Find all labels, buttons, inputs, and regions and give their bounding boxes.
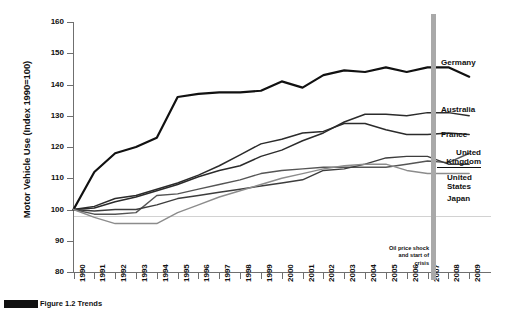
series-line-germany [74, 67, 470, 209]
series-label-uk-line1: United [437, 148, 481, 157]
chart-figure: Motor Vehicle Use (Index 1990=100) 80901… [0, 0, 523, 315]
series-label-us-line2: States [447, 182, 472, 191]
series-line-united-states [74, 156, 470, 211]
series-label-france: France [441, 130, 467, 139]
series-label-uk-line2: Kingdom [437, 157, 481, 166]
caption-text: Figure 1.2 Trends [40, 299, 102, 308]
series-label-germany: Germany [441, 58, 476, 67]
series-label-us-line1: United [447, 173, 472, 182]
series-label-united-kingdom: UnitedKingdom [437, 148, 481, 168]
crisis-annotation-line-1: Oil price shock [356, 245, 429, 252]
series-line-france [74, 124, 470, 210]
crisis-annotation-line-2: and start of [356, 252, 429, 259]
caption-bar [4, 300, 38, 308]
crisis-annotation: Oil price shock and start of crisis [356, 245, 429, 267]
crisis-marker-line [431, 14, 436, 280]
series-label-australia: Australia [441, 105, 475, 114]
series-line-united-kingdom [74, 153, 470, 214]
crisis-annotation-line-3: crisis [356, 260, 429, 267]
series-label-united-states: UnitedStates [447, 173, 472, 191]
series-line-australia [74, 113, 470, 210]
series-line-japan [74, 164, 470, 223]
series-label-japan: Japan [447, 194, 470, 203]
